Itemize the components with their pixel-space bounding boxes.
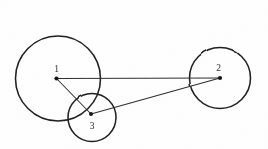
figure-canvas: 1 2 3 xyxy=(0,0,268,149)
node-dot-2 xyxy=(218,76,222,80)
figure-svg: 1 2 3 xyxy=(0,0,268,149)
edge-node1-node2 xyxy=(57,78,221,79)
node-label-2: 2 xyxy=(216,63,221,73)
node-label-3: 3 xyxy=(90,121,95,131)
figure-background xyxy=(0,0,268,149)
node-label-1: 1 xyxy=(54,64,59,74)
node-dot-3 xyxy=(89,112,93,116)
node-dot-1 xyxy=(54,76,58,80)
